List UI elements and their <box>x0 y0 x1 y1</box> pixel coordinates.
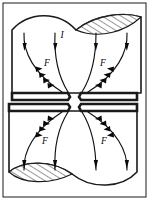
lower-plate-left <box>9 104 70 111</box>
lower-plate-right <box>79 104 137 111</box>
force-label-lower-left: F <box>41 136 48 146</box>
pinch-effect-diagram: I F F F F <box>0 0 149 200</box>
upper-plate-left <box>12 93 70 100</box>
upper-plate-right <box>79 93 137 100</box>
force-label-lower-right: F <box>100 136 107 146</box>
figure-root: I F F F F <box>0 0 149 200</box>
neck-plates <box>9 93 137 111</box>
force-label-upper-right: F <box>99 58 106 68</box>
force-label-upper-left: F <box>43 58 50 68</box>
